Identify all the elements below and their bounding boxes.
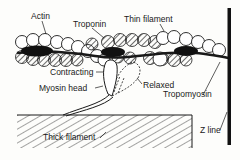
myosin-head-contracting — [104, 60, 118, 96]
myosin-neck — [63, 95, 113, 116]
label-actin: Actin — [31, 11, 50, 21]
label-thick-filament: Thick filament — [43, 132, 96, 142]
thin-filament — [16, 31, 230, 67]
z-line — [228, 8, 232, 145]
label-z-line: Z line — [200, 125, 221, 135]
label-myosin-head: Myosin head — [39, 83, 87, 93]
label-troponin: Troponin — [73, 19, 107, 29]
label-tropomyosin: Tropomyosin — [163, 89, 212, 99]
label-thin-filament: Thin filament — [124, 14, 173, 24]
label-contracting: Contracting — [50, 67, 94, 77]
sarcomere-diagram: Actin Troponin Thin filament Contracting… — [0, 0, 240, 160]
diagram-canvas: Actin Troponin Thin filament Contracting… — [0, 0, 240, 160]
